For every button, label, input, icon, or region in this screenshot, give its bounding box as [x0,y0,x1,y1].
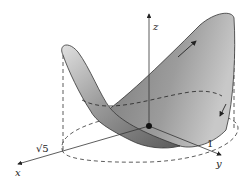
sqrt5-label: √5 [36,143,49,154]
z-axis-label: z [152,21,159,32]
y-axis-label: y [215,158,222,169]
origin-point [146,123,152,129]
diagram-canvas: z x y √5 1 [0,0,248,186]
x-axis-label: x [15,167,21,178]
saddle-surface-diagram: z x y √5 1 [0,0,248,186]
one-label: 1 [207,138,213,149]
